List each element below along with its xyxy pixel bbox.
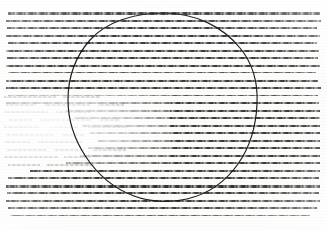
text-fragment (6, 149, 46, 151)
text-line (7, 27, 317, 29)
text-fragment (6, 134, 54, 136)
text-line (6, 185, 320, 188)
text-line (6, 35, 320, 37)
text-line (98, 140, 320, 142)
text-fragment (4, 141, 30, 143)
text-line (6, 87, 321, 89)
text-line (6, 80, 318, 82)
text-line (30, 170, 320, 172)
text-fragment (100, 119, 120, 121)
text-fragment (4, 126, 40, 128)
document-page (0, 0, 327, 230)
text-line (7, 57, 318, 59)
text-fragment (64, 156, 90, 158)
text-fragment (46, 164, 94, 166)
text-fragment (62, 134, 84, 136)
text-fragment (88, 126, 128, 128)
text-line (66, 162, 320, 164)
text-line (8, 42, 317, 44)
text-block (0, 0, 327, 230)
text-fragment (8, 164, 40, 166)
text-line (8, 207, 317, 209)
text-line (7, 192, 319, 194)
text-fragment (8, 119, 32, 121)
text-line (6, 50, 319, 52)
text-line (6, 20, 321, 22)
text-fragment (4, 156, 58, 158)
text-line (8, 72, 316, 73)
text-line (80, 155, 320, 157)
text-line (90, 132, 320, 134)
text-line (8, 177, 319, 179)
text-fragment (56, 111, 90, 113)
text-line (8, 12, 320, 15)
text-fragment (62, 96, 100, 98)
text-fragment (98, 104, 124, 106)
text-fragment (38, 141, 82, 143)
text-fragment (92, 149, 126, 151)
text-fragment (44, 104, 90, 106)
text-line (66, 110, 320, 112)
text-fragment (54, 149, 84, 151)
text-fragment (4, 96, 56, 98)
text-line (10, 215, 310, 216)
text-fragment (40, 119, 92, 121)
text-fragment (6, 104, 36, 106)
text-fragment (50, 126, 78, 128)
text-line (6, 200, 320, 202)
text-line (6, 65, 320, 67)
text-fragment (4, 111, 48, 113)
